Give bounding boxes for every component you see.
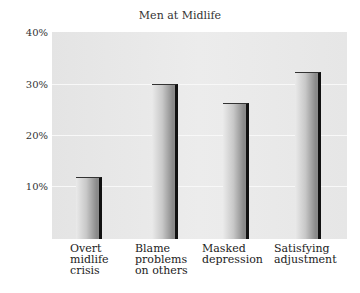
bar-overt-midlife-crisis: [76, 177, 102, 239]
bar-satisfying-adjustment: [295, 72, 321, 239]
y-tick-40: 40%: [22, 27, 48, 38]
chart-title: Men at Midlife: [0, 9, 360, 22]
x-label-masked-depression: Masked depression: [202, 243, 263, 265]
x-label-satisfying-adjustment: Satisfying adjustment: [274, 243, 337, 265]
x-label-blame-problems: Blame problems on others: [135, 243, 188, 276]
y-tick-20: 20%: [22, 130, 48, 141]
y-tick-30: 30%: [22, 79, 48, 90]
bar-blame-problems-on-others: [152, 84, 178, 239]
x-label-overt-midlife-crisis: Overt midlife crisis: [70, 243, 109, 276]
y-tick-10: 10%: [22, 181, 48, 192]
bar-masked-depression: [223, 103, 249, 239]
plot-area: [52, 32, 347, 239]
